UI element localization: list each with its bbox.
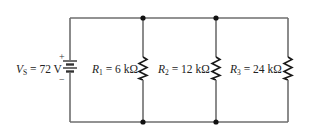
r1-value: = 6 kΩ — [106, 63, 138, 75]
battery-icon — [63, 61, 77, 72]
r2-symbol: R — [158, 63, 165, 75]
resistor-r1-label: R1 = 6 kΩ — [92, 64, 138, 77]
resistor-r3-icon — [284, 57, 292, 80]
junction-node-bottom-2 — [213, 119, 218, 124]
resistor-r3-label: R3 = 24 kΩ — [230, 64, 282, 77]
r1-subscript: 1 — [99, 68, 103, 77]
resistor-r1-icon — [139, 57, 147, 80]
source-label: VS = 72 V — [16, 64, 62, 77]
r3-value: = 24 kΩ — [244, 63, 282, 75]
source-subscript: S — [23, 68, 27, 77]
source-symbol: V — [16, 63, 23, 75]
junction-node-top-2 — [213, 15, 218, 20]
source-minus-sign: − — [59, 75, 65, 85]
r2-subscript: 2 — [165, 68, 169, 77]
source-value: = 72 V — [30, 63, 62, 75]
source-plus-sign: + — [59, 52, 65, 62]
r2-value: = 12 kΩ — [172, 63, 210, 75]
junction-node-top-1 — [140, 15, 145, 20]
resistor-r2-icon — [212, 57, 220, 80]
r3-subscript: 3 — [237, 68, 241, 77]
junction-node-bottom-1 — [140, 119, 145, 124]
r1-symbol: R — [92, 63, 99, 75]
resistor-r2-label: R2 = 12 kΩ — [158, 64, 210, 77]
r3-symbol: R — [230, 63, 237, 75]
